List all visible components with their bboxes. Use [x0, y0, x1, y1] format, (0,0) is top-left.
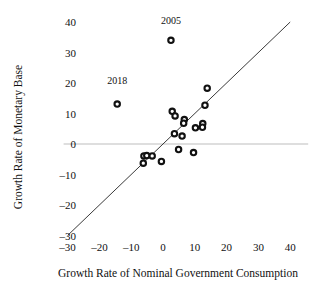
x-tick-label: 0 — [160, 241, 166, 253]
y-tick-label: –10 — [59, 169, 77, 181]
data-point — [115, 101, 120, 106]
x-axis-tick-labels: –30–20–10010203040 — [58, 241, 296, 253]
x-tick-label: 10 — [189, 241, 201, 253]
point-annotation: 2018 — [107, 75, 127, 86]
x-tick-label: –30 — [58, 241, 76, 253]
data-point — [191, 150, 196, 155]
data-point — [176, 147, 181, 152]
x-axis-title: Growth Rate of Nominal Government Consum… — [58, 267, 298, 280]
data-point — [172, 113, 177, 118]
y-tick-label: –20 — [59, 199, 77, 211]
forty-five-degree-line — [68, 22, 291, 236]
y-tick-label: 30 — [65, 47, 77, 59]
data-point — [202, 103, 207, 108]
data-point — [168, 38, 173, 43]
y-tick-label: 40 — [65, 16, 77, 28]
y-tick-label: 20 — [65, 77, 77, 89]
data-point — [179, 133, 184, 138]
data-point — [200, 125, 205, 130]
x-tick-label: –10 — [122, 241, 140, 253]
data-point — [141, 161, 146, 166]
x-tick-label: –20 — [90, 241, 108, 253]
reference-line-segment — [68, 22, 291, 236]
data-points — [115, 38, 210, 166]
data-point — [172, 131, 177, 136]
data-point — [205, 85, 210, 90]
y-tick-label: –30 — [59, 230, 77, 242]
x-tick-label: 30 — [253, 241, 265, 253]
y-axis-tick-labels: –30–20–10010203040 — [59, 16, 77, 242]
scatter-plot-svg: –30–20–10010203040 –30–20–10010203040 20… — [0, 0, 313, 283]
data-point — [149, 153, 154, 158]
data-point — [193, 125, 198, 130]
y-axis-title: Growth Rate of Monetary Base — [12, 65, 25, 209]
scatter-chart-figure: –30–20–10010203040 –30–20–10010203040 20… — [0, 0, 313, 283]
y-tick-label: 10 — [65, 108, 77, 120]
data-point — [159, 159, 164, 164]
point-annotations: 20052018 — [107, 15, 181, 85]
x-tick-label: 40 — [285, 241, 297, 253]
x-tick-label: 20 — [221, 241, 233, 253]
data-point — [181, 121, 186, 126]
point-annotation: 2005 — [161, 15, 181, 26]
y-tick-label: 0 — [71, 138, 77, 150]
